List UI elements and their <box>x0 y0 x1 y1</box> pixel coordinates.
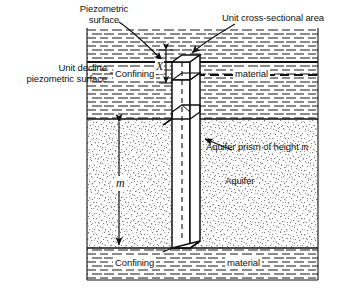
aquifer-prism-label-text: Aquifer prism of height <box>206 141 301 152</box>
aquifer-prism-label-symbol: m <box>301 142 308 152</box>
aquifer-prism-label: Aquifer prism of height m <box>206 141 308 153</box>
dimension-x-label: X <box>155 59 164 74</box>
aquifer-label: Aquifer <box>225 175 254 186</box>
strata-group <box>87 28 318 280</box>
piezometric-surface-label-line2: surface <box>89 14 119 25</box>
confining-upper-right-label: material <box>233 68 270 79</box>
unit-cross-sectional-area-label: Unit cross-sectional area <box>222 12 324 23</box>
piezometric-surface-label: Piezometric surface <box>58 3 150 25</box>
prism-body-right <box>190 73 200 248</box>
piezometric-surface-label-line1: Piezometric <box>80 3 129 14</box>
unit-decline-label-line2: piezometric surface <box>27 73 107 84</box>
unit-decline-label: Unit decline piezometric surface <box>0 62 107 84</box>
confining-lower-left-label: Confining <box>113 257 156 268</box>
dimension-m-label: m <box>114 176 127 191</box>
unit-decline-label-line1: Unit decline <box>59 62 107 73</box>
confining-lower-right-label: material <box>225 257 262 268</box>
prism-top-cube-front <box>172 62 190 80</box>
confining-upper-left-label: Confining <box>113 68 156 79</box>
aquifer-prism-figure: Piezometric surface Unit cross-sectional… <box>0 0 341 292</box>
